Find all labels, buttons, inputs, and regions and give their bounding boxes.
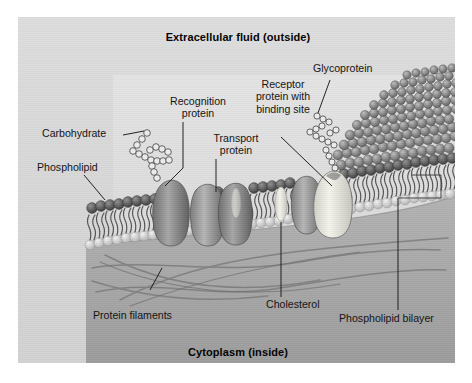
label-recognition-protein-line1: Recognition <box>170 95 226 107</box>
receptor-protein-body <box>314 171 353 238</box>
cholesterol-molecule <box>275 187 287 221</box>
label-cholesterol: Cholesterol <box>266 298 320 310</box>
label-transport-protein: Transport protein <box>191 132 281 157</box>
cholesterol-molecule <box>231 188 241 218</box>
label-recognition-protein-line2: protein <box>182 107 214 119</box>
cytoplasm-title: Cytoplasm (inside) <box>165 346 311 358</box>
label-receptor-protein: Receptor protein with binding site <box>229 78 337 115</box>
label-carbohydrate: Carbohydrate <box>42 127 106 139</box>
diagram-panel: Extracellular fluid (outside) Cytoplasm … <box>18 17 455 363</box>
label-receptor-protein-line3: binding site <box>256 103 310 115</box>
label-glycoprotein: Glycoprotein <box>313 62 372 74</box>
extracellular-title: Extracellular fluid (outside) <box>158 31 318 43</box>
label-phospholipid-bilayer: Phospholipid bilayer <box>339 312 434 324</box>
label-receptor-protein-line1: Receptor <box>262 78 305 90</box>
label-transport-protein-line2: protein <box>220 144 252 156</box>
label-transport-protein-line1: Transport <box>214 132 259 144</box>
label-protein-filaments: Protein filaments <box>93 309 172 321</box>
label-phospholipid: Phospholipid <box>37 161 98 173</box>
label-receptor-protein-line2: protein with <box>256 90 310 102</box>
figure-canvas: Extracellular fluid (outside) Cytoplasm … <box>0 0 472 383</box>
